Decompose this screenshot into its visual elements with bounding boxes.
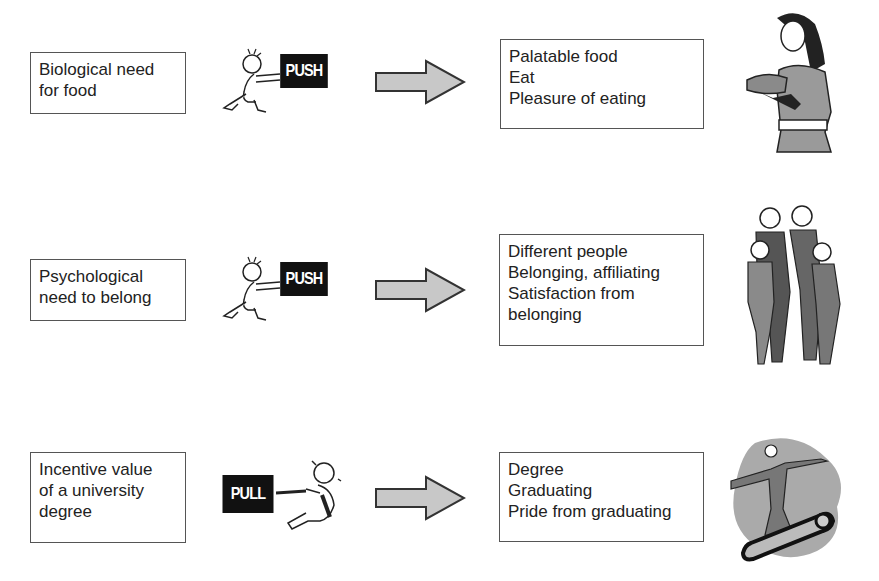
cause-text: Biological need [39,59,177,80]
arrow-right-icon [374,59,466,105]
outcome-box-food: Palatable food Eat Pleasure of eating [500,39,704,129]
cause-text: Incentive value [39,459,177,480]
arrow-right-icon [374,267,466,313]
graduate-on-diploma-scroll-icon [725,433,850,563]
pull-sign: PULL [223,475,274,513]
push-sign: PUSH [280,54,328,88]
outcome-text: Pride from graduating [508,501,695,522]
outcome-text: belonging [508,304,695,325]
cause-text: for food [39,80,177,101]
cause-box-biological: Biological need for food [30,52,186,114]
outcome-box-belonging: Different people Belonging, affiliating … [499,234,704,346]
outcome-text: Satisfaction from [508,283,695,304]
cause-text: need to belong [39,287,177,308]
cause-box-incentive: Incentive value of a university degree [30,452,186,543]
outcome-box-degree: Degree Graduating Pride from graduating [499,452,704,542]
arrow-right-icon [374,475,466,521]
cause-text: of a university [39,480,177,501]
outcome-text: Pleasure of eating [509,88,695,109]
woman-holding-food-icon [735,8,845,158]
outcome-text: Graduating [508,480,695,501]
outcome-text: Eat [509,67,695,88]
cause-text: degree [39,501,177,522]
pushing-person-icon: PUSH [220,48,340,118]
pushing-person-icon: PUSH [220,256,340,326]
group-of-people-icon [730,200,850,380]
outcome-text: Palatable food [509,46,695,67]
outcome-text: Degree [508,459,695,480]
push-sign: PUSH [280,262,328,296]
pulling-person-icon: PULL [218,455,363,535]
outcome-text: Belonging, affiliating [508,262,695,283]
cause-text: Psychological [39,266,177,287]
outcome-text: Different people [508,241,695,262]
cause-box-psychological: Psychological need to belong [30,259,186,321]
